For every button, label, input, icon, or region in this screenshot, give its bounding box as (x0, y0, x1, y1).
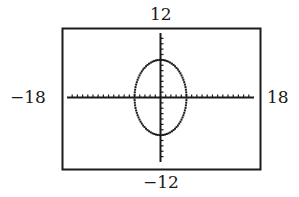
curve-pixel (141, 123, 143, 125)
curve-pixel (185, 99, 187, 101)
curve-pixel (134, 91, 136, 93)
curve-pixel (186, 97, 188, 99)
curve-pixel (134, 94, 136, 96)
curve-pixel (179, 121, 181, 123)
curve-pixel (135, 107, 137, 109)
curve-pixel (159, 59, 161, 61)
curve-pixel (160, 59, 162, 61)
curve-pixel (164, 134, 166, 136)
curve-pixel (135, 109, 137, 111)
curve-pixel (141, 70, 143, 72)
curve-pixel (160, 134, 162, 136)
curve-pixel (162, 59, 164, 61)
graph-window (0, 0, 299, 197)
curve-pixel (181, 74, 183, 76)
curve-pixel (185, 107, 187, 109)
curve-pixel (157, 59, 159, 61)
curve-pixel (134, 104, 136, 106)
curve-pixel (139, 119, 141, 121)
curve-pixel (178, 70, 180, 72)
curve-pixel (136, 81, 138, 83)
curve-pixel (162, 134, 164, 136)
curve-pixel (185, 89, 187, 91)
curve-pixel (184, 84, 186, 86)
curve-pixel (137, 79, 139, 81)
curve-pixel (185, 94, 187, 96)
curve-pixel (182, 77, 184, 79)
curve-pixel (157, 134, 159, 136)
curve-pixel (139, 74, 141, 76)
curve-pixel (183, 112, 185, 114)
curve-pixel (182, 79, 184, 81)
curve-pixel (140, 121, 142, 123)
curve-pixel (138, 77, 140, 79)
curve-pixel (140, 72, 142, 74)
curve-pixel (181, 119, 183, 121)
curve-pixel (179, 72, 181, 74)
curve-pixel (159, 134, 161, 136)
curve-pixel (135, 84, 137, 86)
curve-pixel (166, 60, 168, 62)
curve-pixel (138, 116, 140, 118)
curve-pixel (137, 114, 139, 116)
curve-pixel (164, 59, 166, 61)
curve-pixel (182, 114, 184, 116)
curve-pixel (183, 81, 185, 83)
curve-pixel (134, 89, 136, 91)
curve-pixel (185, 86, 187, 88)
curve-pixel (136, 112, 138, 114)
curve-pixel (184, 109, 186, 111)
curve-pixel (155, 134, 157, 136)
curve-pixel (185, 104, 187, 106)
curve-pixel (134, 102, 136, 104)
curve-pixel (177, 125, 179, 127)
curve-pixel (134, 97, 136, 99)
curve-pixel (182, 116, 184, 118)
curve-pixel (178, 123, 180, 125)
curve-pixel (155, 59, 157, 61)
curve-pixel (153, 133, 155, 135)
curve-pixel (135, 86, 137, 88)
axes (67, 33, 254, 162)
curve-pixel (134, 99, 136, 101)
curve-pixel (142, 69, 144, 71)
curve-pixel (185, 91, 187, 93)
curve-pixel (185, 102, 187, 104)
